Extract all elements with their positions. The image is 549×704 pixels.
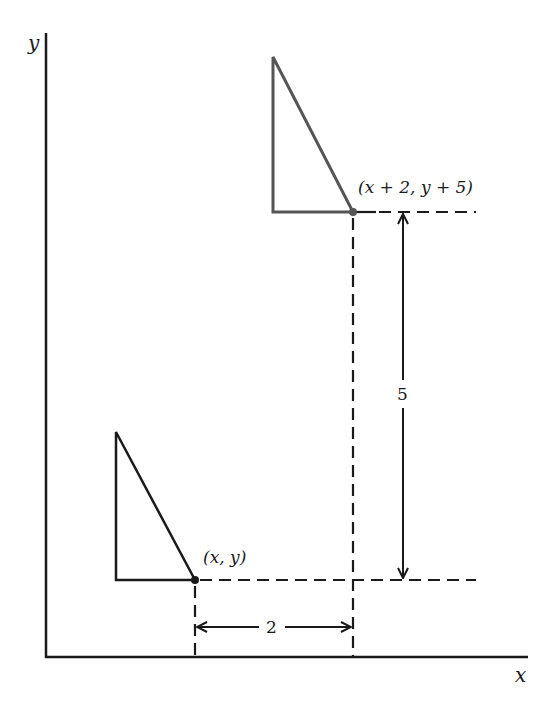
original-point-dot	[191, 576, 199, 584]
original-point-label: (x, y)	[203, 547, 246, 567]
original-triangle	[116, 432, 199, 584]
horizontal-shift-label: 2	[266, 617, 277, 637]
axes	[45, 33, 528, 658]
translated-point-label: (x + 2, y + 5)	[358, 177, 473, 197]
vertical-shift-label: 5	[397, 384, 408, 404]
guide-lines	[195, 212, 476, 657]
translation-diagram: y x (x, y) (x + 2, y + 5) 5 2	[0, 0, 549, 704]
y-axis-label: y	[27, 31, 40, 55]
x-axis-label: x	[515, 663, 526, 687]
translated-point-dot	[349, 208, 357, 216]
